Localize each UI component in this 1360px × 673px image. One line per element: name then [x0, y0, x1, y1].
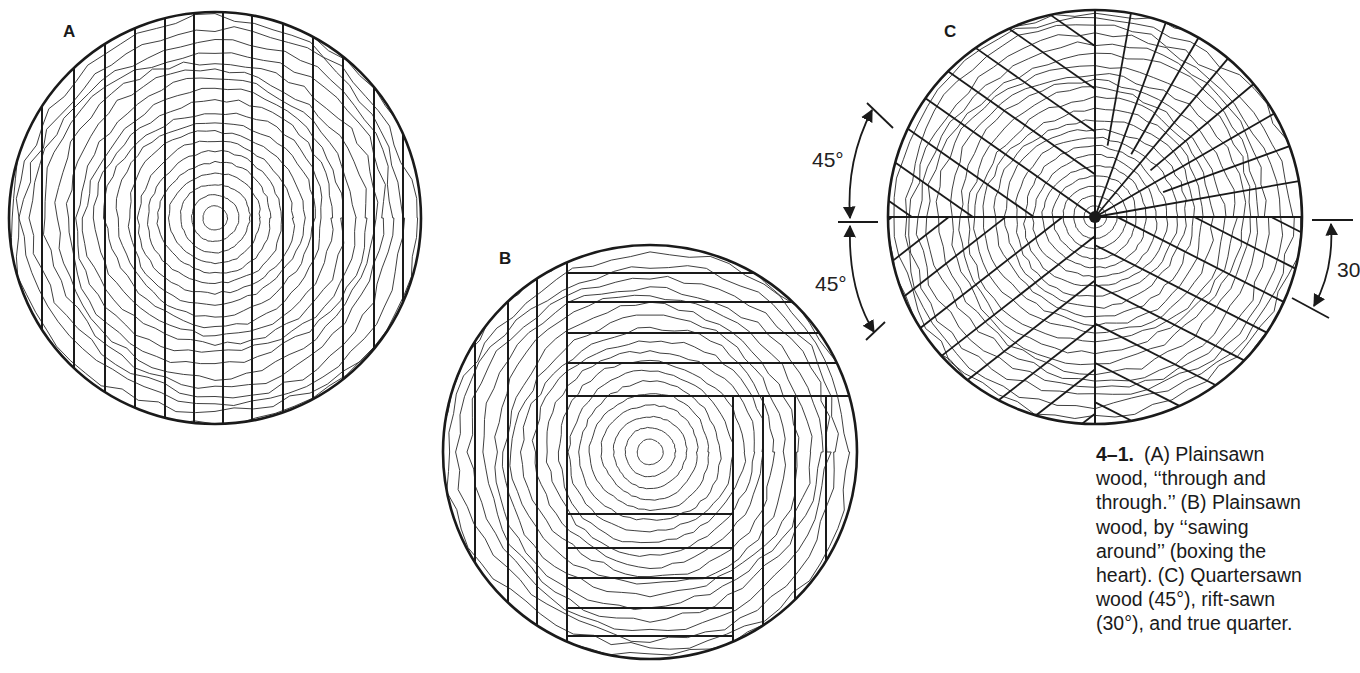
- caption-line: through.’’ (B) Plainsawn: [1096, 490, 1358, 514]
- panel-label-a: A: [63, 22, 75, 42]
- saw-cut-line: [1095, 22, 1166, 217]
- figure-number: 4–1.: [1096, 443, 1134, 465]
- saw-cut-line: [1096, 363, 1180, 406]
- saw-cut-line: [1051, 15, 1094, 45]
- saw-cut-line: [1150, 84, 1253, 170]
- caption-line: (30°), and true quarter.: [1096, 611, 1358, 635]
- saw-cut-line: [1131, 38, 1198, 155]
- saw-cut-line: [948, 71, 1095, 174]
- panel-label-b: B: [499, 249, 511, 269]
- pith-center: [1089, 211, 1101, 223]
- angle-label-upper-45: 45°: [812, 148, 844, 172]
- panel-label-c: C: [944, 22, 956, 42]
- saw-cut-line: [1272, 217, 1301, 232]
- saw-cut-line: [968, 281, 1094, 380]
- caption-line: around’’ (boxing the: [1096, 539, 1358, 563]
- caption-line: (A) Plainsawn: [1144, 443, 1264, 465]
- log-cross-section-c: [885, 10, 1308, 432]
- saw-cut-line: [942, 236, 1095, 355]
- log-cross-section-b: [438, 238, 866, 659]
- caption-line: wood, ‘‘through and: [1096, 466, 1358, 490]
- saw-cut-line: [904, 217, 1005, 296]
- saw-cut-line: [1082, 414, 1094, 423]
- angle-label-30: 30: [1337, 258, 1360, 282]
- saw-cut-line: [1195, 217, 1296, 268]
- saw-cut-line: [893, 217, 948, 260]
- figure-caption: 4–1.(A) Plainsawn wood, ‘‘through and th…: [1096, 442, 1358, 636]
- saw-cut-line: [1036, 369, 1094, 415]
- caption-line: wood, by ‘‘sawing: [1096, 515, 1358, 539]
- saw-cut-line: [889, 201, 912, 217]
- log-cross-section-a: [9, 8, 432, 425]
- caption-line: heart). (C) Quartersawn: [1096, 563, 1358, 587]
- saw-cut-line: [976, 48, 1094, 131]
- caption-line: wood (45°), rift-sawn: [1096, 587, 1358, 611]
- saw-cut-line: [908, 129, 1034, 217]
- angle-label-lower-45: 45°: [815, 272, 847, 296]
- saw-cut-line: [1096, 403, 1131, 421]
- saw-cut-line: [999, 325, 1094, 399]
- saw-cut-line: [920, 217, 1062, 328]
